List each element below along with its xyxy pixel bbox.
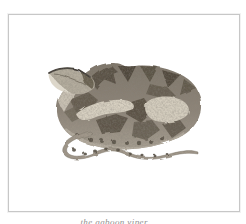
snake-illustration [0, 0, 246, 224]
stipple-texture [44, 58, 204, 164]
snake-figure [44, 58, 204, 164]
plate-caption: the gaboon viper. [0, 217, 230, 224]
plate-page: the gaboon viper. [0, 0, 246, 224]
